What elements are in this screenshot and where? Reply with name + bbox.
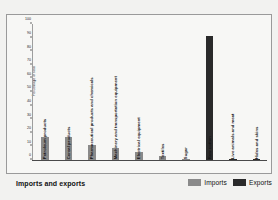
plot-area: Percentage of total 01020304050607080901… (6, 14, 272, 174)
legend-item-imports: Imports (188, 179, 227, 186)
chart-figure: Percentage of total 01020304050607080901… (0, 0, 278, 200)
bar-group: Textiles (151, 24, 175, 160)
bar-group: Petroleum products (33, 24, 57, 160)
bar-group: Electrical equipment (127, 24, 151, 160)
bar-group: Hides and skins (245, 24, 269, 160)
x-axis-line (32, 160, 267, 161)
y-axis-ticks: 0102030405060708090100 (7, 15, 33, 173)
x-axis-category-label: Petroleum products (43, 119, 47, 159)
legend-label-exports: Exports (249, 179, 272, 186)
bar-group: Pharmaceutical products and chemicals (80, 24, 104, 160)
x-axis-category-label: Textiles (161, 143, 165, 159)
chart-legend: Imports Exports (188, 179, 272, 186)
bar-group: Raw cotton (198, 24, 222, 160)
bar-group: Machinery and transportation equipment (104, 24, 128, 160)
legend-swatch-imports (188, 179, 201, 186)
x-axis-category-label: Sugar (184, 147, 188, 159)
x-axis-category-label: Machinery and transportation equipment (114, 76, 118, 159)
chart-title: Imports and exports (16, 180, 85, 187)
x-axis-category-label: Electrical equipment (137, 117, 141, 159)
legend-item-exports: Exports (233, 179, 272, 186)
caption-row: Imports and exports Imports Exports (6, 178, 272, 194)
bar-group: Live animals and meat (221, 24, 245, 160)
bar-group: Sugar (174, 24, 198, 160)
x-axis-category-label: Pharmaceutical products and chemicals (90, 77, 94, 159)
bar-group: Cereal products (57, 24, 81, 160)
x-axis-category-label: Live animals and meat (231, 113, 235, 159)
legend-label-imports: Imports (204, 179, 227, 186)
legend-swatch-exports (233, 179, 246, 186)
bars-container: Petroleum productsCereal productsPharmac… (33, 24, 268, 160)
x-axis-category-label: Cereal products (67, 126, 71, 159)
x-axis-category-label: Raw cotton (208, 136, 212, 159)
x-axis-category-label: Hides and skins (255, 126, 259, 159)
